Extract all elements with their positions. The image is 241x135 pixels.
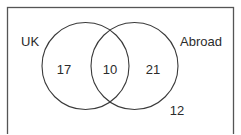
value-outside-sets: 12 xyxy=(170,103,184,118)
value-abroad-only: 21 xyxy=(146,62,160,77)
set-label-uk: UK xyxy=(21,34,39,49)
set-label-abroad: Abroad xyxy=(180,34,222,49)
value-uk-only: 17 xyxy=(57,62,71,77)
universal-set-rectangle xyxy=(8,8,234,135)
venn-diagram-svg: UK Abroad 17 10 21 12 xyxy=(0,0,241,134)
value-intersection: 10 xyxy=(103,62,117,77)
venn-diagram-canvas: UK Abroad 17 10 21 12 xyxy=(0,0,241,134)
